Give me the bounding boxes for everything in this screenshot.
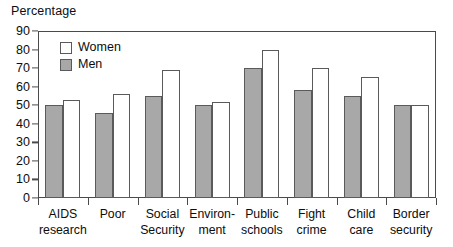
bar-men: [344, 96, 362, 198]
bar-men: [294, 90, 312, 198]
y-tick-label: 0: [6, 191, 30, 205]
y-tick-label: 20: [6, 154, 30, 168]
x-tick-mark: [138, 198, 139, 205]
y-tick-label: 50: [6, 98, 30, 112]
x-category-label: Environ-ment: [187, 207, 237, 238]
legend-item-women: Women: [60, 40, 121, 55]
bar-women: [63, 100, 81, 198]
bar-men: [244, 68, 262, 198]
x-category-label: Childcare: [337, 207, 387, 238]
y-tick-label: 70: [6, 61, 30, 75]
x-category-label: AIDSresearch: [38, 207, 88, 238]
bar-women: [411, 105, 429, 198]
y-axis-title: Percentage: [11, 4, 76, 18]
bar-men: [394, 105, 412, 198]
y-tick-label: 90: [6, 24, 30, 38]
y-tick-label: 60: [6, 80, 30, 94]
legend-item-men: Men: [60, 57, 121, 72]
bar-men: [145, 96, 163, 198]
x-tick-mark: [386, 198, 387, 205]
bar-women: [312, 68, 330, 198]
bar-women: [162, 70, 180, 198]
bar-men: [45, 105, 63, 198]
y-tick-label: 30: [6, 135, 30, 149]
bar-men: [95, 113, 113, 198]
bar-group: [337, 31, 387, 198]
x-tick-mark: [38, 198, 39, 205]
bar-group: [138, 31, 188, 198]
bar-women: [361, 77, 379, 198]
bar-group: [386, 31, 436, 198]
y-tick-label: 10: [6, 172, 30, 186]
x-tick-mark: [187, 198, 188, 205]
bar-women: [212, 102, 230, 198]
x-category-label: Fightcrime: [287, 207, 337, 238]
bar-women: [262, 50, 280, 198]
chart-legend: Women Men: [60, 40, 121, 72]
x-tick-mark: [237, 198, 238, 205]
legend-label-women: Women: [78, 41, 121, 54]
bar-chart: Percentage 0102030405060708090 AIDSresea…: [0, 0, 453, 247]
x-category-label: Poor: [88, 207, 138, 223]
x-category-label: SocialSecurity: [138, 207, 188, 238]
legend-swatch-women-icon: [60, 42, 72, 54]
y-tick-label: 80: [6, 43, 30, 57]
bar-group: [237, 31, 287, 198]
bar-group: [187, 31, 237, 198]
legend-label-men: Men: [78, 58, 102, 71]
x-tick-mark: [337, 198, 338, 205]
bar-men: [195, 105, 213, 198]
bar-group: [287, 31, 337, 198]
bar-women: [113, 94, 131, 198]
x-tick-mark: [287, 198, 288, 205]
x-category-label: Publicschools: [237, 207, 287, 238]
x-tick-mark: [436, 198, 437, 205]
x-category-label: Bordersecurity: [386, 207, 436, 238]
y-tick-label: 40: [6, 117, 30, 131]
x-tick-mark: [88, 198, 89, 205]
legend-swatch-men-icon: [60, 59, 72, 71]
